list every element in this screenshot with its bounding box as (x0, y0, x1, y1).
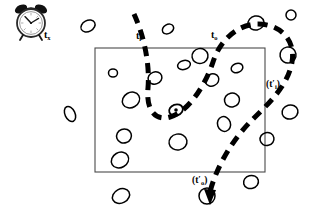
label-reenter-time-sub: i (275, 83, 277, 90)
particle-ellipse (115, 127, 134, 145)
label-enter-time-sub: i (139, 35, 141, 42)
particle-ellipse (119, 89, 142, 111)
particle-ellipse (286, 10, 296, 20)
label-enter-time: ti (136, 31, 141, 41)
label-exit-time: to (211, 30, 218, 40)
particle-ellipse (259, 131, 275, 147)
particle-ellipse (242, 174, 260, 190)
label-clock-time-sub: x (47, 34, 50, 41)
particle-ellipse (216, 115, 233, 133)
particle-ellipse (79, 18, 97, 35)
particle-ellipse (177, 59, 192, 71)
particle-ellipse (230, 62, 244, 75)
tagged-particle-center-dot (174, 108, 178, 112)
label-reexit-time: (t′o) (192, 176, 207, 186)
particle-trajectory (134, 14, 293, 205)
figure-canvas: tx ti to (t′i) (t′o) (0, 0, 309, 213)
clock-leg-left (20, 35, 23, 40)
clock-hand-pivot (30, 22, 32, 24)
particle-ellipse (191, 47, 209, 65)
label-reexit-paren-close: ) (204, 175, 207, 185)
particle-ellipse (161, 22, 176, 36)
particle-ellipse (109, 69, 118, 77)
label-reexit-time-sub: o (201, 179, 204, 186)
label-clock-time: tx (44, 30, 51, 40)
particle-ellipse (62, 105, 78, 124)
particle-ellipse (223, 92, 241, 109)
particle-ellipse (110, 186, 132, 207)
label-reenter-time: (t′i) (266, 80, 280, 90)
particle-ellipse (280, 103, 299, 121)
particle-ellipse (108, 149, 131, 171)
label-reenter-paren-close: ) (277, 79, 280, 89)
label-exit-time-sub: o (214, 34, 217, 41)
particle-ellipse (168, 133, 189, 152)
clock-leg-right (39, 35, 42, 40)
